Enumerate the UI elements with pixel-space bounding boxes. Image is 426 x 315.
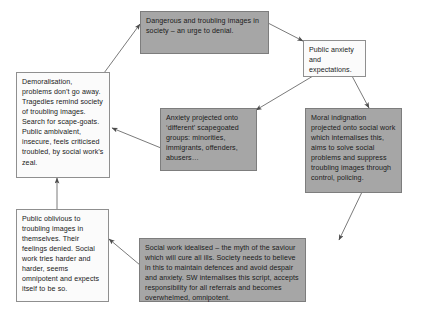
node-dangerous-images[interactable]: Dangerous and troubling images in societ… — [140, 11, 269, 54]
node-anxiety-projected-label: Anxiety projected onto ‘different’ scape… — [166, 113, 251, 163]
edge-public-anxiety-to-anxiety-projected — [256, 76, 313, 110]
node-moral-indignation-label: Moral indignation projected onto social … — [311, 113, 396, 183]
node-public-oblivious[interactable]: Public oblivious to troubling images in … — [16, 209, 109, 302]
node-public-anxiety-label: Public anxiety and expectations. — [309, 45, 360, 75]
diagram-canvas: Dangerous and troubling images in societ… — [0, 0, 426, 315]
node-demoralisation-label: Demoralisation, problems don’t go away. … — [22, 77, 104, 168]
node-social-work-idealised-label: Social work idealised – the myth of the … — [145, 243, 300, 303]
edge-public-anxiety-to-moral-indignation — [352, 76, 369, 108]
edge-anxiety-projected-to-demoralisation — [112, 128, 161, 148]
edge-demoralisation-to-dangerous — [104, 24, 140, 73]
edge-social-work-idealised-to-public-oblivious — [109, 239, 140, 265]
node-public-anxiety[interactable]: Public anxiety and expectations. — [303, 40, 366, 77]
node-demoralisation[interactable]: Demoralisation, problems don’t go away. … — [16, 72, 110, 178]
node-public-oblivious-label: Public oblivious to troubling images in … — [22, 214, 103, 295]
node-anxiety-projected[interactable]: Anxiety projected onto ‘different’ scape… — [160, 108, 257, 171]
edge-dangerous-to-public-anxiety — [268, 23, 303, 41]
node-social-work-idealised[interactable]: Social work idealised – the myth of the … — [139, 238, 306, 302]
node-dangerous-images-label: Dangerous and troubling images in societ… — [146, 16, 263, 36]
node-moral-indignation[interactable]: Moral indignation projected onto social … — [305, 108, 402, 193]
edge-moral-indignation-to-social-work-idealised — [339, 192, 362, 240]
